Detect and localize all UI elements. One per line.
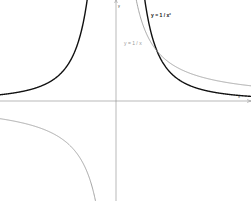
label-inverse-square: y = 1 / x² xyxy=(151,13,171,18)
label-inverse: y = 1 / x xyxy=(124,41,142,46)
y-axis-label: y xyxy=(118,4,120,8)
chart-area: y = 1 / x² y = 1 / x y x xyxy=(0,0,251,201)
x-axis-label: x xyxy=(238,95,240,99)
curve-inverse-square xyxy=(0,0,89,95)
plot-canvas xyxy=(0,0,251,201)
curve-inverse xyxy=(0,119,98,201)
